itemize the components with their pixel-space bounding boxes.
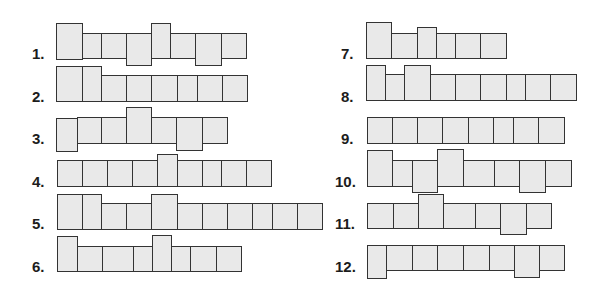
square-cell xyxy=(366,65,386,101)
square-cell xyxy=(550,74,577,101)
square-cell xyxy=(392,160,413,187)
square-cell xyxy=(151,117,177,144)
square-cell xyxy=(514,245,540,278)
row-number-label: 7. xyxy=(341,46,354,61)
square-cell xyxy=(177,160,203,187)
square-cell xyxy=(392,117,418,144)
square-cell xyxy=(101,203,127,230)
square-cell xyxy=(56,23,83,60)
square-cell xyxy=(480,74,507,101)
square-cell xyxy=(455,33,481,59)
square-cell xyxy=(195,33,222,66)
square-cell xyxy=(367,150,393,187)
square-cell xyxy=(385,74,405,101)
square-cell xyxy=(525,74,551,101)
square-cell xyxy=(418,194,444,229)
square-cell xyxy=(412,245,438,271)
row-number-label: 2. xyxy=(32,89,45,104)
square-cell xyxy=(57,194,83,230)
square-cell xyxy=(367,203,394,229)
square-cell xyxy=(132,160,158,187)
square-cell xyxy=(412,160,438,193)
square-cell xyxy=(202,203,228,230)
square-cell xyxy=(101,117,127,144)
square-cell xyxy=(151,75,178,102)
row-number-label: 6. xyxy=(32,259,45,274)
square-cell xyxy=(82,194,102,230)
square-cell xyxy=(171,246,191,272)
row-number-label: 5. xyxy=(32,216,45,231)
square-cell xyxy=(506,74,526,101)
square-cell xyxy=(157,154,178,187)
square-cell xyxy=(126,33,152,66)
square-cell xyxy=(539,245,565,271)
square-cell xyxy=(177,75,198,102)
square-cell xyxy=(297,203,323,230)
square-cell xyxy=(77,117,102,144)
square-cell xyxy=(202,160,222,187)
square-cell xyxy=(82,33,102,59)
square-cell xyxy=(404,65,431,101)
square-cell xyxy=(57,236,78,272)
square-cell xyxy=(197,75,223,102)
square-cell xyxy=(500,203,527,235)
square-cell xyxy=(386,245,413,271)
square-cell xyxy=(56,118,78,152)
square-cell xyxy=(437,149,464,187)
square-cell xyxy=(82,66,102,102)
square-cell xyxy=(391,33,418,59)
cube-net-diagram: 1.2.3.4.5.6.7.8.9.10.11.12. xyxy=(0,0,606,295)
square-cell xyxy=(367,117,393,144)
square-cell xyxy=(221,33,247,59)
square-cell xyxy=(246,160,272,187)
row-number-label: 1. xyxy=(32,46,45,61)
square-cell xyxy=(216,246,242,272)
square-cell xyxy=(133,246,153,272)
square-cell xyxy=(101,75,127,102)
square-cell xyxy=(393,203,419,229)
square-cell xyxy=(77,246,103,272)
square-cell xyxy=(366,22,392,59)
square-cell xyxy=(480,33,507,59)
square-cell xyxy=(82,160,108,187)
square-cell xyxy=(417,27,437,59)
row-number-label: 8. xyxy=(341,89,354,104)
square-cell xyxy=(272,203,298,230)
square-cell xyxy=(526,203,552,229)
square-cell xyxy=(57,160,83,187)
row-number-label: 9. xyxy=(341,131,354,146)
square-cell xyxy=(190,246,217,272)
square-cell xyxy=(519,160,546,193)
square-cell xyxy=(430,74,456,101)
square-cell xyxy=(475,203,501,229)
row-number-label: 11. xyxy=(335,216,355,231)
square-cell xyxy=(151,194,178,230)
square-cell xyxy=(489,245,515,271)
square-cell xyxy=(513,117,539,144)
square-cell xyxy=(463,160,495,187)
square-cell xyxy=(170,33,196,59)
square-cell xyxy=(102,246,134,272)
square-cell xyxy=(443,203,476,229)
square-cell xyxy=(152,235,172,272)
square-cell xyxy=(101,33,127,59)
row-number-label: 4. xyxy=(32,174,45,189)
square-cell xyxy=(227,203,253,230)
square-cell xyxy=(221,160,247,187)
square-cell xyxy=(545,160,572,187)
square-cell xyxy=(367,245,387,279)
square-cell xyxy=(417,117,443,144)
row-number-label: 3. xyxy=(32,131,45,146)
square-cell xyxy=(126,107,152,144)
square-cell xyxy=(176,117,203,151)
square-cell xyxy=(463,245,490,271)
square-cell xyxy=(222,75,248,102)
square-cell xyxy=(252,203,273,230)
square-cell xyxy=(107,160,133,187)
row-number-label: 12. xyxy=(335,259,356,274)
square-cell xyxy=(436,33,456,59)
square-cell xyxy=(493,117,514,144)
square-cell xyxy=(538,117,565,144)
row-number-label: 10. xyxy=(335,174,356,189)
square-cell xyxy=(494,160,520,187)
